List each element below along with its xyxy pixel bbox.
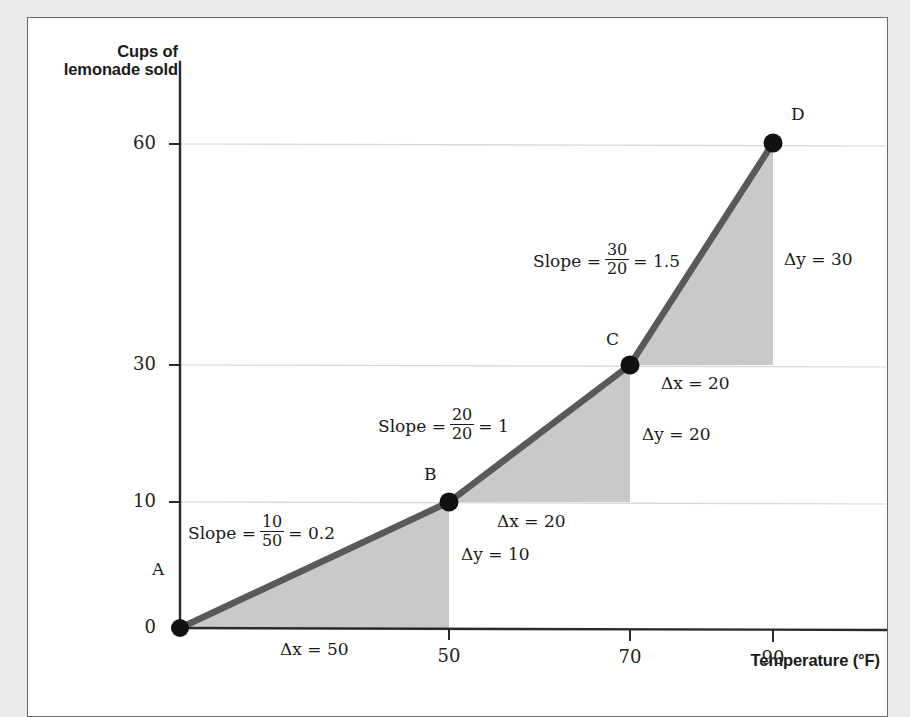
delta-y-bc-label: Δy = 20	[642, 425, 711, 444]
data-point-b	[440, 493, 459, 512]
ytick-label-10: 10	[112, 491, 156, 511]
slope-cd-denominator: 20	[605, 259, 629, 277]
ytick-label-30: 30	[112, 354, 156, 374]
xtick-label-90: 90	[748, 648, 798, 668]
slope-cd-numerator: 30	[605, 242, 629, 259]
slope-bc-lead: Slope =	[378, 416, 450, 436]
delta-x-ab-label: Δx = 50	[280, 640, 349, 659]
slope-bc-numerator: 20	[450, 407, 474, 424]
slope-annotation-ab: Slope = 10 50 = 0.2	[188, 515, 335, 550]
slope-ab-result: = 0.2	[284, 523, 335, 543]
data-point-c	[621, 356, 640, 375]
delta-y-cd-label: Δy = 30	[784, 250, 853, 269]
delta-y-ab-label: Δy = 10	[461, 545, 530, 564]
delta-x-bc-label: Δx = 20	[497, 512, 566, 531]
data-point-d	[764, 134, 783, 153]
y-axis-title: Cups of lemonade sold	[28, 42, 178, 79]
slope-bc-result: = 1	[474, 416, 508, 436]
slope-annotation-cd: Slope = 30 20 = 1.5	[533, 243, 680, 278]
x-axis	[180, 628, 886, 630]
y-axis-ticks	[169, 144, 180, 502]
ytick-label-60: 60	[112, 133, 156, 153]
slope-cd-result: = 1.5	[629, 251, 680, 271]
point-label-a: A	[152, 560, 164, 579]
slope-annotation-bc: Slope = 20 20 = 1	[378, 408, 509, 443]
slope-bc-denominator: 20	[450, 424, 474, 442]
slope-ab-lead: Slope =	[188, 523, 260, 543]
y-axis-title-line1: Cups of	[28, 42, 178, 60]
slope-cd-fraction: 30 20	[605, 242, 629, 277]
point-label-c: C	[606, 330, 619, 349]
slope-ab-numerator: 10	[260, 514, 284, 531]
point-label-b: B	[424, 465, 437, 484]
slope-ab-denominator: 50	[260, 531, 284, 549]
xtick-label-50: 50	[424, 646, 474, 666]
y-axis-title-line2: lemonade sold	[28, 60, 178, 78]
delta-x-cd-label: Δx = 20	[661, 374, 730, 393]
ytick-label-0: 0	[112, 617, 156, 637]
xtick-label-70: 70	[605, 647, 655, 667]
slope-cd-lead: Slope =	[533, 251, 605, 271]
gridline-y10	[180, 502, 886, 504]
slope-bc-fraction: 20 20	[450, 407, 474, 442]
slope-ab-fraction: 10 50	[260, 514, 284, 549]
gridline-y30	[180, 365, 886, 367]
data-point-a	[171, 619, 189, 637]
point-label-d: D	[791, 105, 805, 124]
